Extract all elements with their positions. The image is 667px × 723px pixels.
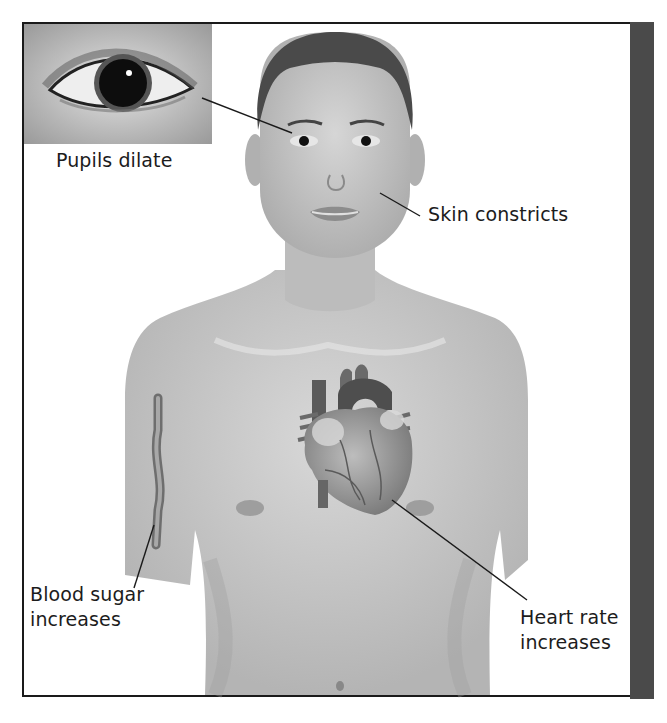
label-skin-constricts: Skin constricts (428, 202, 568, 227)
label-line: increases (30, 607, 144, 632)
label-line: increases (520, 630, 619, 655)
label-heart-rate-increases: Heart rate increases (520, 605, 619, 655)
label-line: Heart rate (520, 605, 619, 630)
label-line: Blood sugar (30, 582, 144, 607)
label-blood-sugar-increases: Blood sugar increases (30, 582, 144, 632)
nipple-left (236, 500, 264, 516)
label-line: Pupils dilate (56, 148, 172, 173)
label-pupils-dilate: Pupils dilate (56, 148, 172, 173)
label-line: Skin constricts (428, 202, 568, 227)
eye-inset-image (24, 24, 212, 144)
head (245, 32, 425, 258)
pupil-dilated (99, 59, 147, 107)
navel (336, 681, 344, 691)
